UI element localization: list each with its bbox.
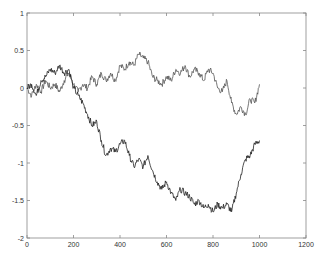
x-tick-label: 600 <box>161 241 173 248</box>
x-tick-label: 800 <box>207 241 219 248</box>
line-chart: 020040060080010001200 -2-1.5-1-0.500.51 <box>0 0 324 259</box>
x-tick-label: 200 <box>68 241 80 248</box>
x-tick-label: 1000 <box>252 241 268 248</box>
y-tick-label: -1 <box>18 160 24 167</box>
y-tick-label: 0.5 <box>14 47 24 54</box>
y-tick-label: 1 <box>20 10 24 17</box>
x-tick-label: 0 <box>25 241 29 248</box>
plot-area <box>27 13 306 238</box>
y-tick-label: -0.5 <box>12 122 24 129</box>
x-tick-label: 400 <box>114 241 126 248</box>
y-tick-label: 0 <box>20 85 24 92</box>
y-tick-label: -1.5 <box>12 197 24 204</box>
x-tick-label: 1200 <box>298 241 314 248</box>
y-tick-label: -2 <box>18 235 24 242</box>
